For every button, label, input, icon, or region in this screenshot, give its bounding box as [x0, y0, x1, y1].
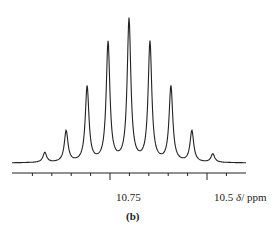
x-axis-unit-label: δ/ ppm [236, 192, 267, 203]
figure-caption: (b) [126, 211, 139, 222]
x-axis-ticks [32, 173, 226, 180]
ppm-unit: / ppm [241, 191, 266, 203]
spectrum-trace [12, 18, 246, 163]
x-tick-label-10.5: 10.5 [214, 192, 233, 203]
x-tick-label-10.75: 10.75 [116, 192, 141, 203]
